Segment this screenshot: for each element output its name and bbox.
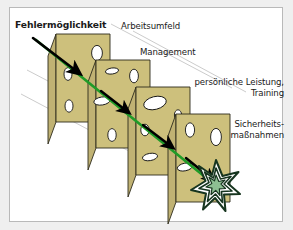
label-layer-3-line-1: persönliche Leistung,	[172, 78, 284, 88]
label-layer-3-line-2: Training	[172, 89, 284, 99]
swiss-cheese-diagram: Fehlermöglichkeit Arbeitsumfeld Manageme…	[0, 0, 293, 230]
label-layer-1-arbeitsumfeld: Arbeitsumfeld	[121, 22, 180, 32]
label-layer-4-line-1: Sicherheits-	[180, 120, 284, 130]
label-layer-4-line-2: maßnahmen	[180, 131, 284, 141]
label-layer-2-management: Management	[140, 48, 196, 58]
label-hazard: Fehlermöglichkeit	[14, 19, 108, 31]
figure-frame	[9, 7, 283, 222]
